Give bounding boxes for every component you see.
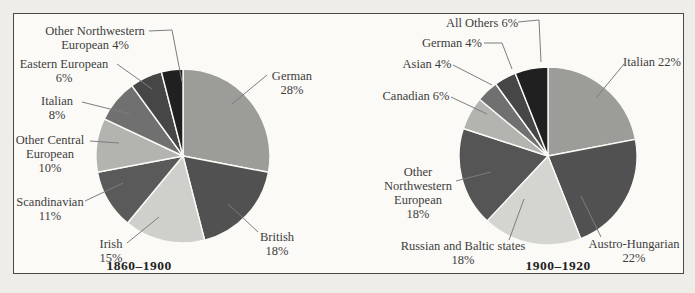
slice-label-german: German 4%	[422, 36, 482, 50]
pie-wedges	[96, 69, 270, 243]
pie-wedges	[459, 67, 637, 245]
slice-label-eastern-european-line1: Eastern European	[20, 57, 109, 71]
slice-label-other-central-european-line1: Other Central	[16, 133, 85, 147]
slice-label-austro-hungarian-line2: 22%	[623, 251, 646, 265]
slice-label-other-central-european-line2: European	[26, 147, 75, 161]
slice-label-other-central-european-line3: 10%	[39, 161, 62, 175]
slice-label-other-northwestern-european-line2: Northwestern	[384, 179, 453, 193]
slice-label-eastern-european-line2: 6%	[56, 71, 73, 85]
slice-label-german-line2: 28%	[281, 83, 304, 97]
slice-label-russian-and-baltic-states-line2: 18%	[452, 253, 475, 267]
slice-label-scandinavian-line2: 11%	[39, 209, 61, 223]
slice-label-asian: Asian 4%	[403, 57, 452, 71]
slice-label-canadian: Canadian 6%	[383, 89, 450, 103]
slice-label-irish-line1: Irish	[100, 237, 124, 251]
period-label-right: 1900–1920	[525, 258, 590, 273]
slice-label-other-northwestern-european-line1: Other	[404, 165, 433, 179]
leader-line-asian	[453, 65, 492, 85]
immigration-pie-figure: German28%British18%Irish15%Scandinavian1…	[0, 0, 695, 293]
slice-label-austro-hungarian-line1: Austro-Hungarian	[589, 237, 681, 251]
slice-label-italian-line2: 8%	[49, 108, 66, 122]
slice-label-scandinavian-line1: Scandinavian	[16, 195, 84, 209]
pie-slice-german	[183, 69, 270, 172]
slice-label-other-northwestern-european-line4: 18%	[407, 207, 430, 221]
slice-label-other-northwestern-european-line1: Other Northwestern	[45, 24, 145, 38]
period-label-left: 1860–1900	[106, 258, 171, 273]
slice-label-italian: Italian 22%	[623, 55, 681, 69]
slice-label-italian-line1: Italian	[41, 94, 74, 108]
pie-chart-1900-1920: Italian 22%Austro-Hungarian22%Russian an…	[383, 16, 681, 273]
leader-line-all-others	[518, 20, 541, 62]
slice-label-british-line2: 18%	[266, 244, 289, 258]
slice-label-german-line1: German	[272, 69, 313, 83]
slice-label-other-northwestern-european-line2: European 4%	[61, 38, 129, 52]
leader-line-german	[484, 43, 512, 69]
slice-label-other-northwestern-european-line3: European	[394, 193, 443, 207]
slice-label-russian-and-baltic-states-line1: Russian and Baltic states	[401, 239, 526, 253]
pie-chart-1860-1900: German28%British18%Irish15%Scandinavian1…	[16, 24, 313, 273]
slice-label-british-line1: British	[260, 230, 295, 244]
slice-label-all-others: All Others 6%	[446, 16, 518, 30]
